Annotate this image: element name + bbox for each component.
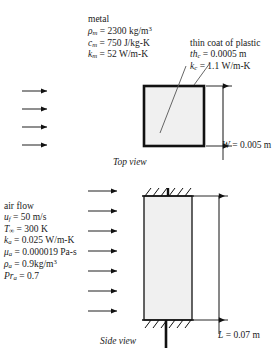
airflow-property-viscosity: μa = 0.000019 Pa-s (4, 247, 77, 259)
side-view-caption: Side view (100, 336, 136, 347)
airflow-property-velocity: uf = 50 m/s (4, 212, 77, 224)
top-view-flow-arrows (22, 91, 47, 145)
metal-property-conductivity: km = 52 W/m-K (88, 49, 152, 61)
plastic-heading: thin coat of plastic (190, 38, 260, 49)
bottom-support-hatching (142, 320, 194, 348)
airflow-properties-block: air flow uf = 50 m/s T∞ = 300 K ka = 0.0… (4, 201, 77, 282)
metal-property-density: ρm = 2300 kg/m3 (88, 25, 152, 37)
plastic-property-conductivity: kc = 1.1 W/m-K (190, 61, 260, 73)
airflow-property-temperature: T∞ = 300 K (4, 224, 77, 236)
airflow-property-prandtl: Pra = 0.7 (4, 271, 77, 283)
airflow-heading: air flow (4, 201, 77, 212)
plastic-properties-block: thin coat of plastic thc = 0.0005 m kc =… (190, 38, 260, 72)
top-view-group (22, 63, 232, 160)
airflow-property-density: ρa = 0.9kg/m3 (4, 258, 77, 270)
metal-property-specific-heat: cm = 750 J/kg-K (88, 38, 152, 50)
side-view-group (88, 188, 228, 348)
airflow-property-conductivity: ka = 0.025 W/m-K (4, 235, 77, 247)
side-view-block (144, 196, 192, 320)
side-view-flow-arrows (88, 191, 117, 311)
plastic-property-thickness: thc = 0.0005 m (190, 49, 260, 61)
metal-properties-block: metal ρm = 2300 kg/m3 cm = 750 J/kg-K km… (88, 14, 152, 61)
top-view-block (144, 86, 204, 146)
length-dimension (194, 196, 228, 334)
width-dimension-label: W = 0.005 m (222, 140, 271, 151)
figure-canvas: metal ρm = 2300 kg/m3 cm = 750 J/kg-K km… (0, 0, 278, 358)
metal-heading: metal (88, 14, 152, 25)
top-support-hatching (142, 188, 194, 196)
length-dimension-label: L = 0.07 m (218, 330, 260, 341)
top-view-caption: Top view (113, 157, 147, 168)
